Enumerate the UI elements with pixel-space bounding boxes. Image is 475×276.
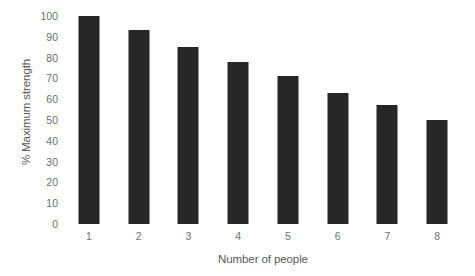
y-axis-tick-label: 50	[30, 113, 58, 127]
y-axis-tick-labels: 1009080706050403020100	[30, 16, 58, 224]
y-axis-tick-label: 70	[30, 71, 58, 85]
bar	[78, 16, 99, 224]
x-axis-tick-label: 5	[263, 228, 313, 244]
bar-slot	[412, 16, 462, 224]
bar-slot	[164, 16, 214, 224]
x-axis-tick-label: 4	[213, 228, 263, 244]
bar	[377, 105, 398, 224]
bar-chart: % Maximum strength 100908070605040302010…	[0, 0, 475, 276]
x-axis-tick-label: 6	[313, 228, 363, 244]
x-axis-tick-label: 1	[64, 228, 114, 244]
bar-slot	[363, 16, 413, 224]
y-axis-tick-label: 60	[30, 92, 58, 106]
y-axis-tick-label: 100	[30, 9, 58, 23]
y-axis-tick-label: 0	[30, 217, 58, 231]
plot-area	[64, 16, 462, 224]
bar-slot	[213, 16, 263, 224]
bar	[327, 93, 348, 224]
bar	[128, 30, 149, 224]
y-axis-tick-label: 30	[30, 155, 58, 169]
y-axis-tick-label: 80	[30, 51, 58, 65]
y-axis-tick-label: 90	[30, 30, 58, 44]
bar-slot	[313, 16, 363, 224]
bar	[277, 76, 298, 224]
y-axis-tick-label: 40	[30, 134, 58, 148]
y-axis-tick-label: 20	[30, 175, 58, 189]
x-axis-tick-label: 3	[164, 228, 214, 244]
bar	[427, 120, 448, 224]
x-axis-tick-label: 8	[412, 228, 462, 244]
bar	[228, 62, 249, 224]
x-axis-tick-labels: 12345678	[64, 228, 462, 244]
x-axis-title: Number of people	[64, 250, 462, 268]
bar-slot	[64, 16, 114, 224]
bar	[178, 47, 199, 224]
x-axis-tick-label: 7	[363, 228, 413, 244]
bar-slot	[114, 16, 164, 224]
x-axis-tick-label: 2	[114, 228, 164, 244]
y-axis-tick-label: 10	[30, 196, 58, 210]
bar-slot	[263, 16, 313, 224]
